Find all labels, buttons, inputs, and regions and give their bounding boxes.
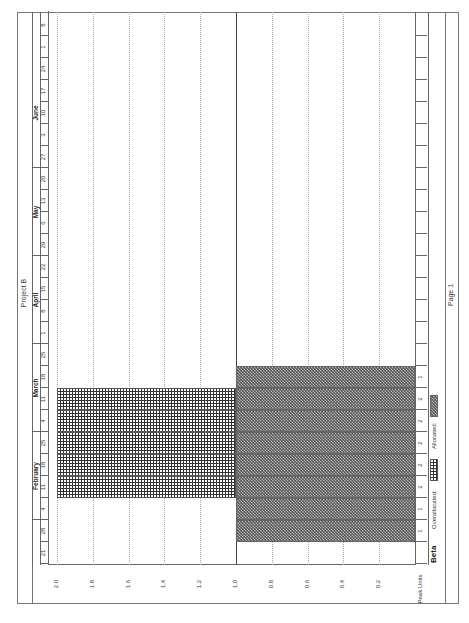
week-label: 3 bbox=[40, 124, 46, 146]
value-divider bbox=[415, 321, 427, 322]
week-label: 17 bbox=[40, 80, 46, 102]
month-label: May bbox=[32, 168, 39, 256]
value-divider bbox=[415, 343, 427, 344]
week-label: 1 bbox=[40, 36, 46, 58]
page-number: Page 1 bbox=[447, 265, 454, 325]
y-axis-label: Peak Units bbox=[417, 569, 423, 609]
y-tick-label: 1.0 bbox=[232, 569, 238, 599]
week-label: 20 bbox=[40, 168, 46, 190]
y-tick-label: 1.6 bbox=[125, 569, 131, 599]
page-title: Project B bbox=[20, 263, 27, 323]
allocated-bar bbox=[236, 454, 415, 476]
value-divider bbox=[415, 299, 427, 300]
week-label: 27 bbox=[40, 146, 46, 168]
week-label: 29 bbox=[40, 234, 46, 256]
week-label: 4 bbox=[40, 410, 46, 432]
value-divider bbox=[415, 365, 427, 366]
week-label: 28 bbox=[40, 520, 46, 542]
value-divider bbox=[415, 167, 427, 168]
week-label: 1 bbox=[40, 322, 46, 344]
resource-name: Beta bbox=[429, 546, 438, 563]
y-tick-label: 0.8 bbox=[268, 569, 274, 599]
week-label: 8 bbox=[40, 14, 46, 36]
allocated-bar bbox=[236, 388, 415, 410]
value-divider bbox=[415, 255, 427, 256]
value-divider bbox=[415, 145, 427, 146]
y-tick-label: 0.4 bbox=[339, 569, 345, 599]
week-label: 11 bbox=[40, 476, 46, 498]
y-tick-label: 1.8 bbox=[89, 569, 95, 599]
month-label: March bbox=[32, 344, 39, 432]
value-cell: 1 bbox=[417, 520, 423, 542]
overallocated-bar bbox=[57, 454, 236, 476]
allocated-bar bbox=[236, 520, 415, 542]
week-label: 24 bbox=[40, 58, 46, 80]
value-cell: 1 bbox=[417, 366, 423, 388]
value-divider bbox=[415, 101, 427, 102]
week-label: 13 bbox=[40, 190, 46, 212]
value-divider bbox=[415, 79, 427, 80]
week-label: 10 bbox=[40, 102, 46, 124]
y-tick-label: 0.6 bbox=[304, 569, 310, 599]
resource-graph-page: Project B FebruaryMarchAprilMayJune 2128… bbox=[0, 0, 469, 623]
value-cell: 2 bbox=[417, 410, 423, 432]
value-divider bbox=[415, 563, 427, 564]
week-label: 11 bbox=[40, 388, 46, 410]
legend-overallocated-swatch bbox=[430, 459, 438, 481]
week-label: 6 bbox=[40, 212, 46, 234]
allocated-bar bbox=[236, 410, 415, 432]
value-divider bbox=[415, 277, 427, 278]
week-label: 21 bbox=[40, 542, 46, 564]
value-cell: 2 bbox=[417, 388, 423, 410]
y-tick-label: 1.4 bbox=[160, 569, 166, 599]
week-label: 8 bbox=[40, 300, 46, 322]
week-label: 18 bbox=[40, 366, 46, 388]
value-divider bbox=[415, 189, 427, 190]
legend-overallocated-label: Overallocated: bbox=[431, 490, 437, 529]
y-tick-label: 2.0 bbox=[53, 569, 59, 599]
allocated-bar bbox=[236, 498, 415, 520]
week-label: 4 bbox=[40, 498, 46, 520]
week-label: 25 bbox=[40, 344, 46, 366]
month-label: June bbox=[32, 58, 39, 168]
week-label: 18 bbox=[40, 454, 46, 476]
allocated-bar bbox=[236, 432, 415, 454]
value-divider bbox=[415, 211, 427, 212]
y-tick-label: 1.2 bbox=[196, 569, 202, 599]
legend-allocated-label: Allocated: bbox=[431, 423, 437, 449]
value-cell: 2 bbox=[417, 476, 423, 498]
value-divider bbox=[415, 233, 427, 234]
week-label: 22 bbox=[40, 256, 46, 278]
value-divider bbox=[415, 35, 427, 36]
value-cell: 2 bbox=[417, 454, 423, 476]
allocated-bar bbox=[236, 476, 415, 498]
week-label: 15 bbox=[40, 278, 46, 300]
month-label: February bbox=[32, 432, 39, 520]
legend-allocated-swatch bbox=[430, 395, 438, 417]
value-cell: 1 bbox=[417, 498, 423, 520]
value-divider bbox=[415, 123, 427, 124]
week-label: 25 bbox=[40, 432, 46, 454]
value-cell: 2 bbox=[417, 432, 423, 454]
overallocated-bar bbox=[57, 410, 236, 432]
overallocated-bar bbox=[57, 476, 236, 498]
y-tick-label: 0.2 bbox=[375, 569, 381, 599]
allocated-bar bbox=[236, 366, 415, 388]
month-label: April bbox=[32, 256, 39, 344]
value-divider bbox=[415, 57, 427, 58]
overallocated-bar bbox=[57, 388, 236, 410]
overallocated-bar bbox=[57, 432, 236, 454]
